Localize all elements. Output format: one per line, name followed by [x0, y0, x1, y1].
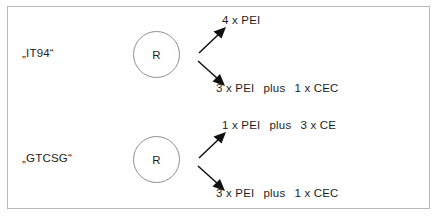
reactant-node-circle: R: [133, 136, 180, 183]
product-connector: plus: [263, 187, 285, 199]
product-right: 3 x CE: [300, 119, 336, 131]
product-line: 3 x PEIplus1 x CEC: [216, 187, 339, 199]
reactant-label: „GTCSG“: [22, 152, 72, 164]
product-left: 4 x PEI: [222, 14, 260, 26]
product-line: 4 x PEI: [222, 14, 278, 26]
product-line: 3 x PEIplus1 x CEC: [216, 82, 339, 94]
product-right: 1 x CEC: [294, 187, 338, 199]
product-right: 1 x CEC: [294, 82, 338, 94]
node-letter: R: [134, 32, 179, 77]
product-left: 1 x PEI: [222, 119, 260, 131]
node-letter: R: [134, 137, 179, 182]
diagram-canvas: „IT94“ R 4 x PEI 3 x PEIplus1 x CEC „GTC…: [0, 0, 437, 217]
product-connector: plus: [263, 82, 285, 94]
product-line: 1 x PEIplus3 x CE: [222, 119, 336, 131]
product-left: 3 x PEI: [216, 82, 254, 94]
arrow-up-right-icon: [196, 131, 230, 161]
reactant-label: „IT94“: [22, 47, 54, 59]
product-left: 3 x PEI: [216, 187, 254, 199]
reactant-node-circle: R: [133, 31, 180, 78]
product-connector: plus: [269, 119, 291, 131]
arrow-up-right-icon: [196, 26, 230, 56]
